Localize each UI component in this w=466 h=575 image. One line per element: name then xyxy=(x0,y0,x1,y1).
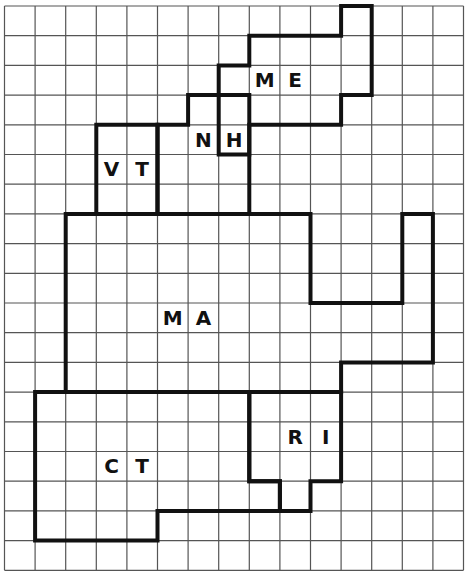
state-label-nh: N xyxy=(195,128,212,152)
state-label-vt: V xyxy=(104,157,120,181)
state-label-nh: H xyxy=(226,128,243,152)
state-label-vt: T xyxy=(135,157,149,181)
state-label-ct: T xyxy=(135,454,149,478)
state-label-ma: A xyxy=(196,306,212,330)
state-label-me: E xyxy=(288,68,302,92)
map-canvas: MENHVTMARICT xyxy=(0,0,466,575)
grid-map: MENHVTMARICT xyxy=(0,0,466,575)
state-label-me: M xyxy=(255,68,275,92)
state-label-ma: M xyxy=(163,306,183,330)
state-label-ct: C xyxy=(104,454,119,478)
state-label-ri: I xyxy=(322,425,329,449)
grid-lines xyxy=(5,6,464,570)
state-label-ri: R xyxy=(287,425,302,449)
